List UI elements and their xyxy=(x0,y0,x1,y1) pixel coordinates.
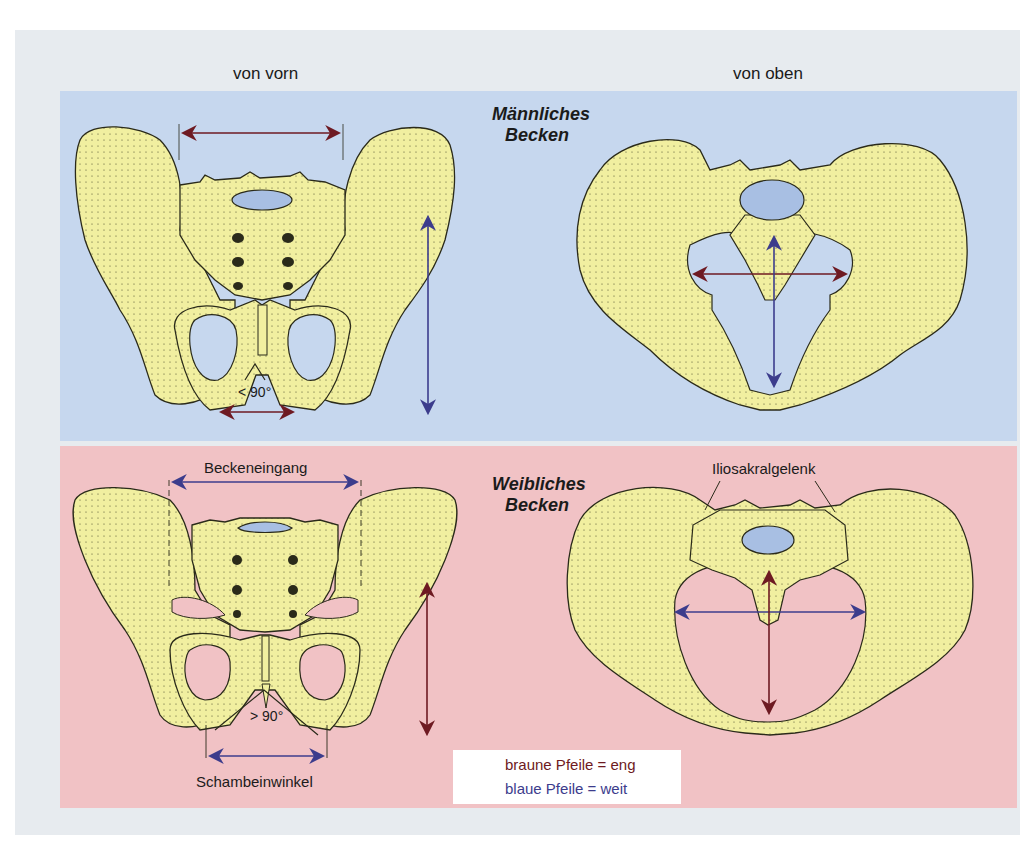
pelvic-inlet-label: Beckeneingang xyxy=(204,459,307,476)
male-title-line1: Männliches xyxy=(492,104,582,125)
male-pelvis-top xyxy=(577,140,967,410)
male-title-line2: Becken xyxy=(492,125,582,146)
sacroiliac-joint-label: Iliosakralgelenk xyxy=(712,460,815,477)
female-pelvis-top xyxy=(567,481,973,735)
male-pelvis-title: Männliches Becken xyxy=(492,104,582,146)
female-pelvis-title: Weibliches Becken xyxy=(492,474,582,516)
legend-brown-text: braune Pfeile = eng xyxy=(505,756,636,773)
pubic-angle-name-label: Schambeinwinkel xyxy=(196,773,313,790)
arrow-legend: braune Pfeile = eng blaue Pfeile = weit xyxy=(453,750,681,804)
male-pelvis-front xyxy=(75,124,454,412)
female-title-line1: Weibliches xyxy=(492,474,582,495)
female-pubic-angle-label: > 90° xyxy=(250,708,283,724)
female-title-line2: Becken xyxy=(492,495,582,516)
legend-blue-text: blaue Pfeile = weit xyxy=(505,780,627,797)
male-pubic-angle-label: < 90° xyxy=(238,384,271,400)
